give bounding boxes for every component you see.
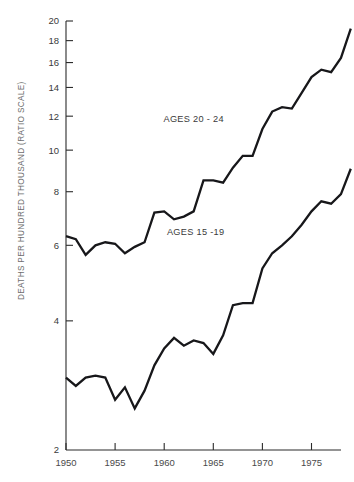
- y-tick-label: 20: [48, 15, 59, 26]
- y-tick-label: 12: [48, 111, 59, 122]
- chart-container: DEATHS PER HUNDRED THOUSAND (RATIO SCALE…: [0, 0, 354, 482]
- series-annotation-ages-20-24: AGES 20 - 24: [164, 114, 224, 124]
- y-tick-label: 14: [48, 82, 59, 93]
- line-chart: DEATHS PER HUNDRED THOUSAND (RATIO SCALE…: [0, 0, 354, 482]
- y-tick-label: 10: [48, 145, 59, 156]
- y-tick-label: 6: [54, 240, 59, 251]
- x-tick-label: 1965: [203, 457, 224, 468]
- x-tick-label: 1950: [55, 457, 76, 468]
- x-tick-label: 1955: [105, 457, 126, 468]
- x-tick-label: 1970: [252, 457, 273, 468]
- x-tick-label: 1960: [154, 457, 175, 468]
- series-annotation-ages-15-19: AGES 15 -19: [167, 227, 224, 237]
- y-tick-label: 16: [48, 57, 59, 68]
- y-tick-label: 18: [48, 35, 59, 46]
- y-tick-label: 4: [54, 315, 59, 326]
- x-tick-label: 1975: [301, 457, 322, 468]
- y-tick-label: 2: [54, 444, 59, 455]
- y-tick-label: 8: [54, 186, 59, 197]
- y-axis-title: DEATHS PER HUNDRED THOUSAND (RATIO SCALE…: [17, 81, 26, 300]
